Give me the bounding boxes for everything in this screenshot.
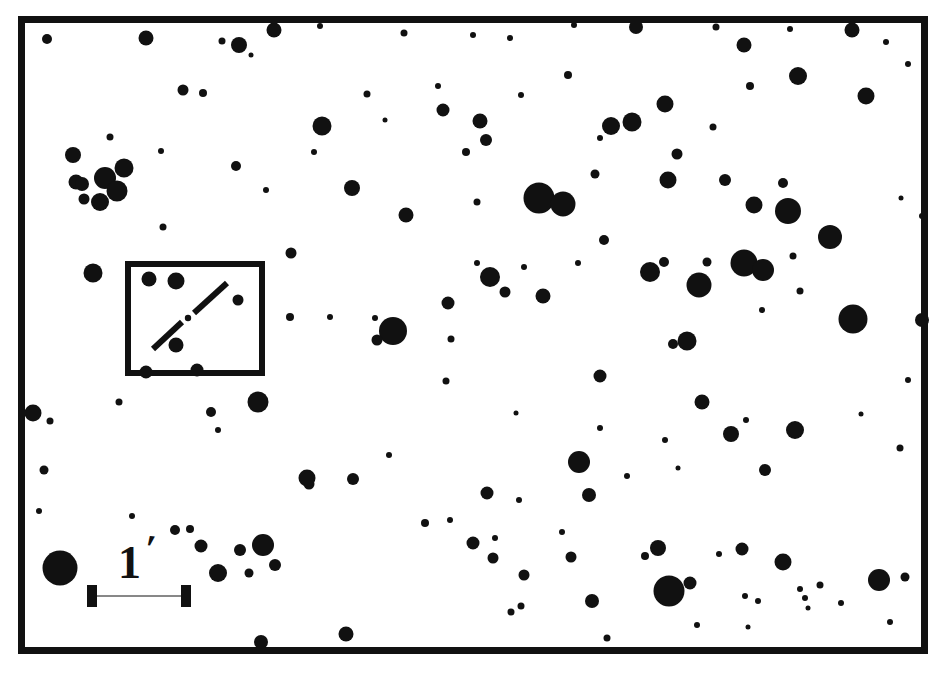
star-point — [719, 174, 731, 186]
star-point — [624, 473, 630, 479]
star-point — [672, 149, 683, 160]
inset-star-point — [142, 272, 157, 287]
star-point — [379, 317, 407, 345]
star-point — [778, 178, 788, 188]
star-point — [473, 114, 488, 129]
star-point — [602, 117, 620, 135]
star-point — [703, 258, 712, 267]
star-point — [500, 287, 511, 298]
star-point — [737, 38, 752, 53]
star-point — [42, 34, 52, 44]
target-marker-center-dot — [185, 315, 191, 321]
star-point — [195, 540, 208, 553]
star-point — [47, 418, 54, 425]
star-point — [186, 525, 194, 533]
inset-star-point — [233, 295, 244, 306]
star-point — [641, 552, 649, 560]
star-point — [723, 426, 739, 442]
star-point — [488, 553, 499, 564]
star-point — [115, 159, 134, 178]
star-point — [344, 180, 360, 196]
star-point — [659, 257, 669, 267]
star-point — [508, 609, 515, 616]
star-point — [199, 89, 207, 97]
star-point — [518, 603, 525, 610]
star-point — [36, 508, 42, 514]
star-point — [234, 544, 246, 556]
inset-star-point — [169, 338, 184, 353]
star-point — [435, 83, 441, 89]
star-point — [654, 576, 685, 607]
star-point — [139, 31, 154, 46]
star-point — [662, 437, 668, 443]
star-point — [286, 248, 297, 259]
star-point — [713, 24, 720, 31]
star-point — [25, 405, 42, 422]
star-point — [818, 225, 842, 249]
star-point — [660, 172, 677, 189]
star-point — [845, 23, 860, 38]
star-point — [684, 577, 697, 590]
star-point — [40, 466, 49, 475]
star-point — [170, 525, 180, 535]
star-point — [219, 38, 226, 45]
finder-chart: 1 ′ — [0, 0, 944, 674]
star-point — [582, 488, 596, 502]
star-point — [470, 32, 476, 38]
star-point — [383, 118, 388, 123]
star-point — [695, 395, 710, 410]
star-point — [591, 170, 600, 179]
star-point — [107, 181, 128, 202]
star-point — [597, 135, 603, 141]
star-point — [787, 26, 793, 32]
star-point — [775, 198, 801, 224]
star-point — [160, 224, 167, 231]
star-point — [299, 470, 316, 487]
star-point — [317, 23, 323, 29]
star-point — [790, 253, 797, 260]
star-point — [676, 466, 681, 471]
star-point — [521, 264, 527, 270]
star-point — [716, 551, 722, 557]
star-point — [868, 569, 890, 591]
star-point — [623, 113, 642, 132]
star-point — [897, 445, 904, 452]
star-point — [437, 104, 450, 117]
star-point — [364, 91, 371, 98]
star-point — [839, 305, 868, 334]
star-point — [263, 187, 269, 193]
star-point — [536, 289, 551, 304]
star-point — [905, 61, 911, 67]
star-point — [245, 569, 254, 578]
star-point — [585, 594, 599, 608]
star-point — [116, 399, 123, 406]
star-point — [797, 586, 803, 592]
star-point — [231, 37, 247, 53]
star-point — [802, 595, 808, 601]
star-point — [752, 259, 774, 281]
star-point — [657, 96, 674, 113]
star-point — [514, 411, 519, 416]
star-point — [551, 192, 576, 217]
star-point — [742, 593, 748, 599]
star-point — [158, 148, 164, 154]
star-field-canvas — [0, 0, 944, 674]
star-point — [492, 535, 498, 541]
star-point — [687, 273, 712, 298]
star-point — [905, 377, 911, 383]
star-point — [559, 529, 565, 535]
star-point — [746, 82, 754, 90]
star-point — [887, 619, 893, 625]
star-point — [789, 67, 807, 85]
star-point — [575, 260, 581, 266]
scale-bar-layer — [92, 585, 186, 607]
star-point — [516, 497, 522, 503]
star-point — [448, 336, 455, 343]
detail-inset-layer — [125, 261, 265, 379]
star-point — [519, 570, 530, 581]
star-point — [442, 297, 455, 310]
star-point — [786, 421, 804, 439]
star-point — [859, 412, 864, 417]
star-point — [248, 392, 269, 413]
star-point — [480, 267, 500, 287]
